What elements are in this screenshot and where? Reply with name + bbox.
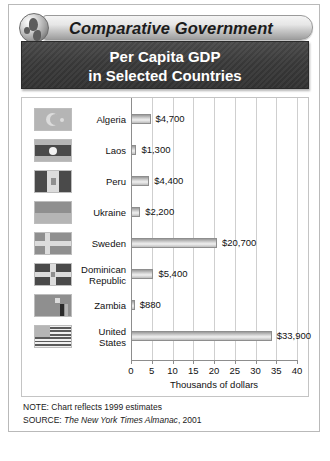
country-label-line: Republic xyxy=(89,275,126,286)
bar-value-label: $2,200 xyxy=(145,206,174,218)
bar xyxy=(131,238,217,248)
flag-dominican-republic-icon-graphic xyxy=(34,263,72,286)
chart-title-block: Per Capita GDP in Selected Countries xyxy=(21,41,309,89)
country-label: Peru xyxy=(74,166,126,197)
x-axis-tick xyxy=(297,360,298,364)
chart-frame: Algeria Laos Peru Ukraine Sweden xyxy=(21,97,309,397)
country-label: Sweden xyxy=(74,228,126,259)
country-label-line: Dominican xyxy=(81,264,126,275)
flag-sweden-icon-graphic xyxy=(34,232,72,255)
bar-value-label: $33,900 xyxy=(277,330,311,342)
bar xyxy=(131,176,149,186)
bar-value-label: $4,400 xyxy=(154,175,183,187)
gridline xyxy=(256,98,257,360)
plot-area: $4,700$1,300$4,400$2,200$20,700$5,400$88… xyxy=(131,98,297,360)
x-axis-tick xyxy=(214,360,215,364)
country-label: Zambia xyxy=(74,290,126,321)
flag-zambia-icon xyxy=(34,294,72,317)
flag-sweden-icon xyxy=(34,232,72,255)
gridline xyxy=(276,98,277,360)
source-line: SOURCE: The New York Times Almanac, 2001 xyxy=(23,414,309,427)
x-axis-tick xyxy=(193,360,194,364)
x-axis-tick xyxy=(235,360,236,364)
gridline xyxy=(214,98,215,360)
flag-zambia-icon-graphic xyxy=(34,294,72,317)
flag-ukraine-icon xyxy=(34,201,72,224)
bar xyxy=(131,269,153,279)
gridline xyxy=(173,98,174,360)
country-label: UnitedStates xyxy=(74,321,126,352)
note-label: NOTE: xyxy=(23,402,49,412)
flag-united-states-icon xyxy=(34,325,72,348)
gridline xyxy=(152,98,153,360)
source-year: , 2001 xyxy=(178,415,202,425)
flag-laos-icon-graphic xyxy=(34,139,72,162)
bar-value-label: $4,700 xyxy=(156,113,185,125)
flag-peru-icon xyxy=(34,170,72,193)
globe-icon xyxy=(19,13,49,43)
country-label: Algeria xyxy=(74,104,126,135)
country-label-line: Ukraine xyxy=(93,207,126,218)
globe-landmass xyxy=(33,30,41,41)
bar-value-label: $880 xyxy=(140,299,161,311)
bar-value-label: $5,400 xyxy=(158,268,187,280)
x-axis-title: Thousands of dollars xyxy=(91,379,330,390)
flag-ukraine-icon-graphic xyxy=(34,201,72,224)
gridline xyxy=(193,98,194,360)
footnotes: NOTE: Chart reflects 1999 estimates SOUR… xyxy=(23,401,309,427)
country-label-line: United xyxy=(99,326,126,337)
country-label-line: Algeria xyxy=(96,114,126,125)
x-axis-tick xyxy=(173,360,174,364)
note-line: NOTE: Chart reflects 1999 estimates xyxy=(23,401,309,414)
flag-united-states-icon-graphic xyxy=(34,325,72,348)
x-axis-tick xyxy=(276,360,277,364)
bar-value-label: $1,300 xyxy=(141,144,170,156)
bar xyxy=(131,145,136,155)
x-axis: Thousands of dollars 0510152025303540 xyxy=(131,360,297,394)
x-axis-tick xyxy=(131,360,132,364)
country-label-line: Zambia xyxy=(94,300,126,311)
globe-landmass xyxy=(24,27,30,34)
bar-value-label: $20,700 xyxy=(222,237,256,249)
country-label: Laos xyxy=(74,135,126,166)
source-title: The New York Times Almanac xyxy=(62,415,178,425)
bar xyxy=(131,207,140,217)
note-text: Chart reflects 1999 estimates xyxy=(49,402,162,412)
country-label-line: Laos xyxy=(105,145,126,156)
series-title: Comparative Government xyxy=(69,17,313,39)
bar xyxy=(131,114,151,124)
source-label: SOURCE: xyxy=(23,415,62,425)
flag-peru-icon-graphic xyxy=(34,170,72,193)
country-label-line: Peru xyxy=(106,176,126,187)
flag-algeria-icon xyxy=(34,108,72,131)
country-label: Ukraine xyxy=(74,197,126,228)
chart-title-line-2: in Selected Countries xyxy=(22,66,308,85)
flag-algeria-icon-graphic xyxy=(34,108,72,131)
bar xyxy=(131,300,135,310)
chart-title-line-1: Per Capita GDP xyxy=(22,47,308,66)
series-banner: Comparative Government xyxy=(17,13,313,43)
x-axis-tick xyxy=(152,360,153,364)
bar xyxy=(131,331,272,341)
x-axis-tick-label: 40 xyxy=(285,365,309,376)
x-axis-tick xyxy=(256,360,257,364)
country-label: DominicanRepublic xyxy=(74,259,126,290)
gridline xyxy=(235,98,236,360)
country-label-line: Sweden xyxy=(92,238,126,249)
infographic-card: Comparative Government Per Capita GDP in… xyxy=(8,4,320,432)
gridline xyxy=(297,98,298,360)
flag-laos-icon xyxy=(34,139,72,162)
flag-dominican-republic-icon xyxy=(34,263,72,286)
gridline xyxy=(131,98,132,360)
country-label-line: States xyxy=(99,337,126,348)
